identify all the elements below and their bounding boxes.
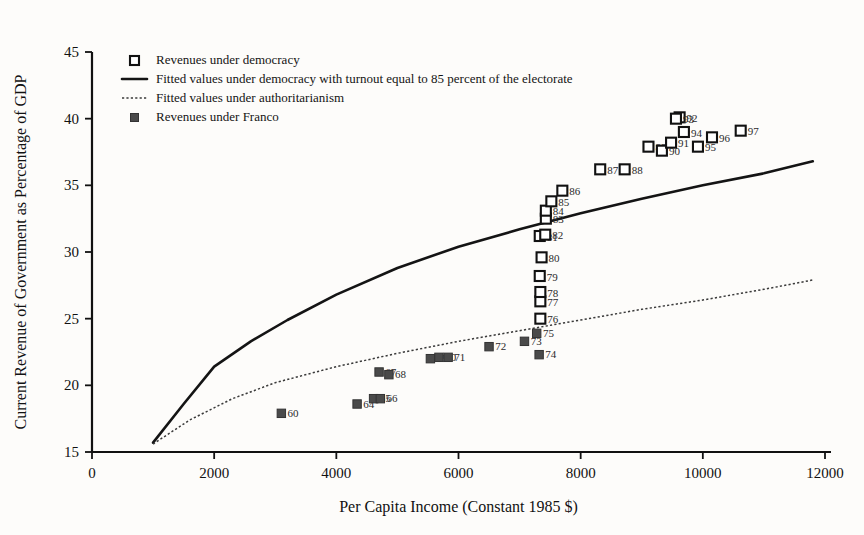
data-point-franco bbox=[535, 350, 543, 358]
data-point-democracy bbox=[693, 142, 703, 152]
legend-marker-open-square-icon bbox=[130, 56, 139, 65]
data-point-democracy bbox=[595, 164, 605, 174]
data-point-franco bbox=[353, 400, 361, 408]
x-tick-label: 4000 bbox=[321, 465, 351, 481]
data-point-label: 91 bbox=[678, 137, 689, 149]
data-point-democracy bbox=[736, 126, 746, 136]
data-point-franco bbox=[520, 337, 528, 345]
data-point-franco bbox=[385, 370, 393, 378]
legend-item-text: Fitted values under authoritarianism bbox=[156, 90, 344, 105]
data-point-democracy bbox=[535, 287, 545, 297]
data-point-democracy bbox=[679, 127, 689, 137]
data-point-label: 78 bbox=[547, 287, 559, 299]
data-point-label: 93 bbox=[683, 113, 695, 125]
y-tick-label: 15 bbox=[64, 444, 79, 460]
data-point-democracy bbox=[540, 230, 550, 240]
data-point-democracy bbox=[535, 314, 545, 324]
chart-figure: 1520253035404502000400060008000100001200… bbox=[0, 0, 864, 535]
data-point-label: 76 bbox=[547, 313, 559, 325]
data-point-label: 88 bbox=[632, 164, 644, 176]
data-point-franco bbox=[277, 409, 285, 417]
data-point-label: 82 bbox=[552, 229, 563, 241]
data-point-label: 75 bbox=[543, 327, 555, 339]
data-point-franco bbox=[435, 353, 443, 361]
data-point-franco bbox=[375, 368, 383, 376]
legend-item-text: Fitted values under democracy with turno… bbox=[156, 71, 573, 86]
y-tick-label: 40 bbox=[64, 111, 79, 127]
x-axis-title-text: Per Capita Income (Constant 1985 $) bbox=[339, 498, 578, 516]
data-point-franco bbox=[376, 394, 384, 402]
data-point-label: 94 bbox=[691, 127, 703, 139]
x-tick-label: 2000 bbox=[199, 465, 229, 481]
data-point-label: 96 bbox=[719, 132, 731, 144]
data-point-label: 97 bbox=[748, 125, 760, 137]
data-point-franco bbox=[485, 342, 493, 350]
y-tick-label: 45 bbox=[64, 44, 79, 60]
data-point-democracy bbox=[620, 164, 630, 174]
y-tick-label: 20 bbox=[64, 377, 79, 393]
chart-svg: 1520253035404502000400060008000100001200… bbox=[0, 0, 864, 535]
data-point-label: 79 bbox=[547, 271, 559, 283]
data-point-label: 60 bbox=[288, 407, 300, 419]
x-tick-label: 10000 bbox=[684, 465, 722, 481]
legend-item-text: Revenues under democracy bbox=[156, 52, 300, 67]
data-point-label: 66 bbox=[387, 392, 399, 404]
legend-marker-filled-square-icon bbox=[131, 114, 139, 122]
data-point-label: 80 bbox=[549, 252, 561, 264]
data-point-label: 85 bbox=[558, 196, 570, 208]
x-tick-label: 6000 bbox=[444, 465, 474, 481]
data-point-democracy bbox=[671, 114, 681, 124]
y-tick-label: 30 bbox=[64, 244, 79, 260]
y-axis-title-text: Current Revenue of Government as Percent… bbox=[12, 74, 30, 429]
data-point-label: 68 bbox=[395, 368, 407, 380]
data-point-democracy bbox=[666, 138, 676, 148]
data-point-label: 71 bbox=[454, 351, 465, 363]
data-point-franco bbox=[426, 354, 434, 362]
y-tick-label: 25 bbox=[64, 311, 79, 327]
data-point-label: 74 bbox=[545, 348, 557, 360]
data-point-democracy bbox=[537, 252, 547, 262]
data-point-franco bbox=[444, 353, 452, 361]
data-point-democracy bbox=[643, 142, 653, 152]
data-point-democracy bbox=[546, 196, 556, 206]
data-point-democracy bbox=[535, 271, 545, 281]
data-point-label: 72 bbox=[495, 340, 506, 352]
data-point-democracy bbox=[557, 186, 567, 196]
data-point-franco bbox=[532, 329, 540, 337]
x-tick-label: 0 bbox=[88, 465, 96, 481]
data-point-democracy bbox=[707, 132, 717, 142]
x-tick-label: 12000 bbox=[806, 465, 844, 481]
data-point-label: 86 bbox=[569, 185, 581, 197]
x-tick-label: 8000 bbox=[566, 465, 596, 481]
legend-item-text: Revenues under Franco bbox=[156, 109, 279, 124]
y-tick-label: 35 bbox=[64, 177, 79, 193]
data-point-label: 87 bbox=[607, 164, 619, 176]
